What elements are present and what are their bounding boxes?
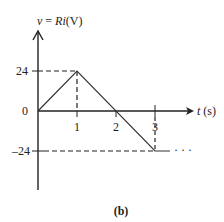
ellipsis: · · · xyxy=(174,143,192,157)
chart: · · · 24 0 –24 1 2 3 v = Ri(V) t (s) (b) xyxy=(0,0,224,222)
y-axis-eq: = xyxy=(42,14,55,28)
caption: (b) xyxy=(114,204,129,218)
x-label-3: 3 xyxy=(152,120,158,134)
x-label-1: 1 xyxy=(74,120,80,134)
y-axis-label: v = Ri(V) xyxy=(37,14,82,28)
y-axis-unit: (V) xyxy=(66,14,83,28)
x-axis-label: t (s) xyxy=(197,104,216,118)
y-label-24: 24 xyxy=(16,64,28,78)
y-label-0: 0 xyxy=(22,104,28,118)
y-label-neg24: –24 xyxy=(11,144,30,158)
x-label-2: 2 xyxy=(113,120,119,134)
y-axis-expr: Ri xyxy=(54,14,66,28)
x-axis-unit: (s) xyxy=(200,104,216,118)
